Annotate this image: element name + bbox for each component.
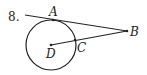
label-b: B xyxy=(129,25,139,39)
point-c xyxy=(74,39,77,42)
label-d: D xyxy=(45,47,56,61)
geometry-diagram: 8. A B C D xyxy=(0,0,147,75)
point-b xyxy=(126,30,129,33)
segment-db xyxy=(51,31,127,45)
label-c: C xyxy=(77,41,86,55)
point-d xyxy=(50,44,53,47)
point-a xyxy=(52,19,55,22)
problem-number: 8. xyxy=(8,10,19,24)
label-a: A xyxy=(48,5,58,19)
